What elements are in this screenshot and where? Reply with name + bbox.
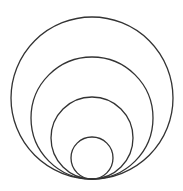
circle-inner: [71, 137, 113, 179]
circle-second: [31, 57, 153, 179]
circle-outer: [11, 17, 173, 179]
nested-tangent-circles-diagram: [0, 0, 183, 191]
circle-third: [51, 97, 133, 179]
